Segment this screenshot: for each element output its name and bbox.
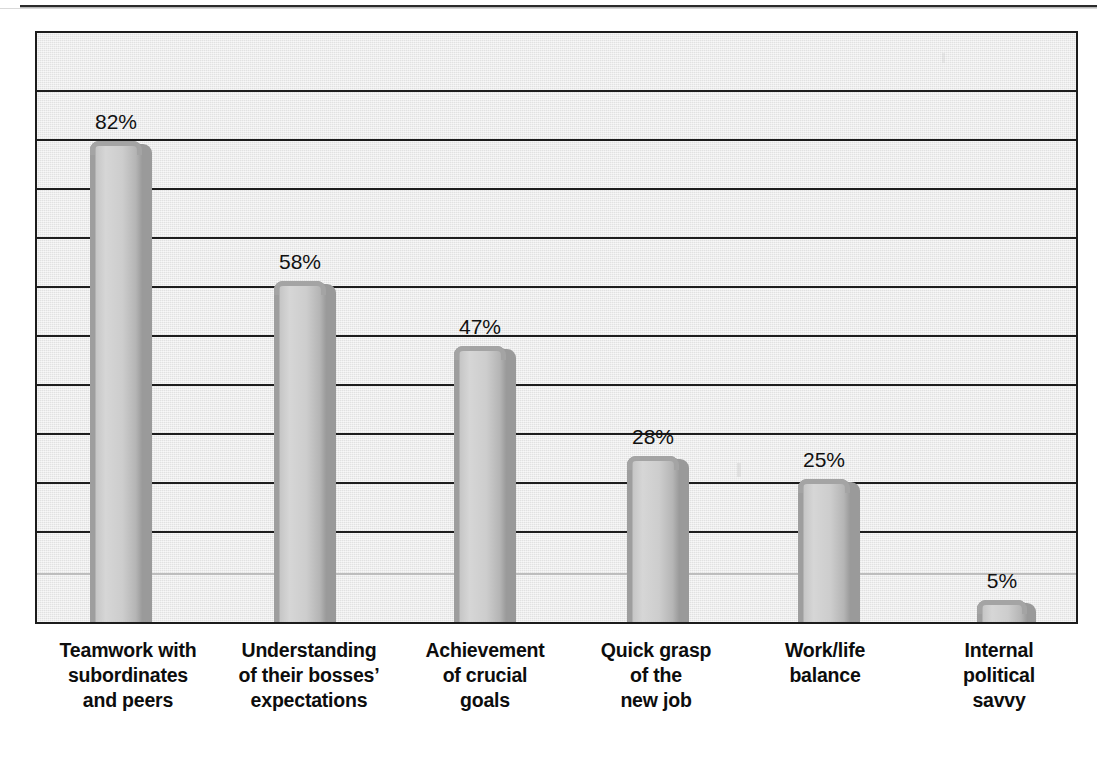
bar-understanding-of-their-bosses-expectations[interactable] — [274, 281, 326, 622]
category-label-quick-grasp: Quick grasp of the new job — [570, 638, 742, 713]
bar-value-label: 58% — [257, 250, 343, 274]
category-label-line: balance — [745, 663, 905, 688]
category-label-understanding: Understanding of their bosses’ expectati… — [211, 638, 407, 713]
category-label-line: political — [919, 663, 1079, 688]
category-label-internal-political-savvy: Internal political savvy — [919, 638, 1079, 713]
bars-layer: 82% 58% 47% 28% 25% — [37, 33, 1076, 622]
plot-area: 82% 58% 47% 28% 25% — [35, 31, 1078, 624]
bar-value-label: 5% — [959, 569, 1045, 593]
bar-cap — [90, 141, 142, 155]
category-label-line: subordinates — [35, 663, 221, 688]
bar-cap — [977, 600, 1027, 614]
bar-internal-political-savvy[interactable] — [977, 600, 1027, 622]
category-label-line: of the — [570, 663, 742, 688]
category-label-teamwork: Teamwork with subordinates and peers — [35, 638, 221, 713]
category-label-line: savvy — [919, 688, 1079, 713]
bar-value-label: 25% — [781, 448, 867, 472]
bar-work-life-balance[interactable] — [798, 479, 850, 622]
category-label-achievement: Achievement of crucial goals — [402, 638, 568, 713]
category-label-line: expectations — [211, 688, 407, 713]
category-label-line: Understanding — [211, 638, 407, 663]
bar-value-label: 47% — [437, 315, 523, 339]
category-labels-row: Teamwork with subordinates and peers Und… — [35, 638, 1078, 748]
bar-achievement-of-crucial-goals[interactable] — [454, 346, 506, 622]
top-divider-rule-secondary — [0, 8, 1097, 9]
bar-value-label: 82% — [73, 110, 159, 134]
category-label-line: Work/life — [745, 638, 905, 663]
bar-cap — [274, 281, 326, 295]
chart-page: 82% 58% 47% 28% 25% — [0, 0, 1097, 771]
category-label-line: Quick grasp — [570, 638, 742, 663]
category-label-line: of their bosses’ — [211, 663, 407, 688]
bar-quick-grasp-of-the-new-job[interactable] — [627, 456, 679, 622]
category-label-work-life-balance: Work/life balance — [745, 638, 905, 688]
category-label-line: goals — [402, 688, 568, 713]
category-label-line: and peers — [35, 688, 221, 713]
category-label-line: new job — [570, 688, 742, 713]
bar-cap — [627, 456, 679, 470]
bar-cap — [798, 479, 850, 493]
bar-teamwork-with-subordinates-and-peers[interactable] — [90, 141, 142, 622]
category-label-line: Teamwork with — [35, 638, 221, 663]
category-label-line: Achievement — [402, 638, 568, 663]
category-label-line: of crucial — [402, 663, 568, 688]
category-label-line: Internal — [919, 638, 1079, 663]
bar-cap — [454, 346, 506, 360]
bar-value-label: 28% — [610, 425, 696, 449]
